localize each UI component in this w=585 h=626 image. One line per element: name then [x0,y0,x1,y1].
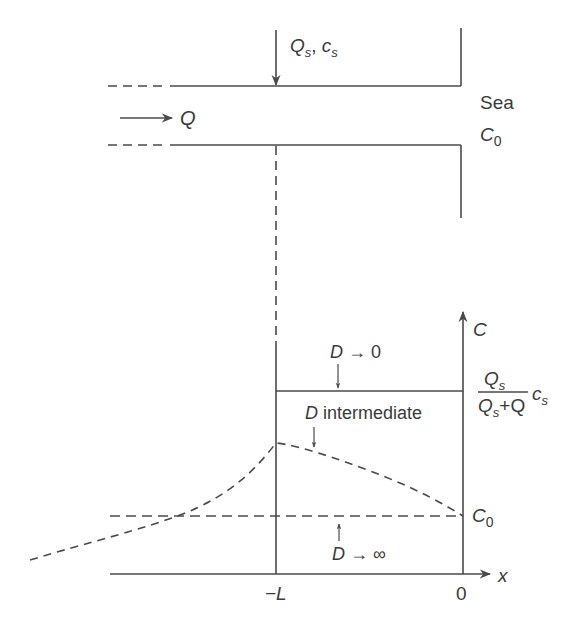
estuary-diagram: Q Qs, cs Sea C0 C x −L 0 Qs Qs+Q cs C0 [0,0,585,626]
level-low-label: C0 [472,505,494,530]
d-zero-label: D → 0 [330,342,381,362]
inflow-label: Q [180,107,196,129]
d-intermediate-label: D intermediate [305,403,422,423]
sea-concentration-label: C0 [480,124,502,149]
svg-text:cs: cs [532,383,549,408]
x-tick-zero: 0 [456,583,467,604]
source-label: Qs, cs [290,35,338,60]
y-axis-label: C [473,319,487,340]
channel [108,28,461,345]
curve-d-intermediate [30,443,463,560]
svg-text:Qs+Q: Qs+Q [478,395,525,420]
plot [30,312,490,574]
d-infinity-label: D → ∞ [332,544,386,564]
svg-text:Qs: Qs [484,368,506,393]
sea-label: Sea [480,92,514,113]
level-high-label: Qs Qs+Q cs [478,368,549,420]
x-tick-minus-L: −L [265,583,287,604]
x-axis-label: x [497,565,509,586]
